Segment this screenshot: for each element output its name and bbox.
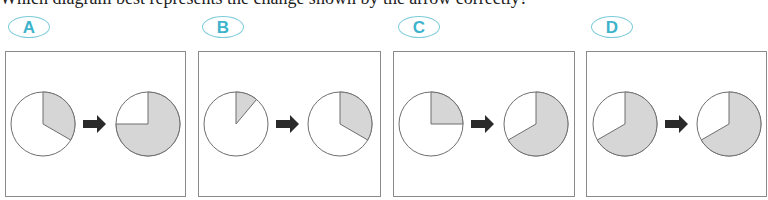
pie-before-b bbox=[204, 92, 268, 156]
arrow-right-icon bbox=[83, 115, 106, 133]
pie-before-a bbox=[11, 92, 75, 156]
pie-before-c bbox=[399, 92, 463, 156]
pie-after-b bbox=[308, 92, 372, 156]
pie-figures bbox=[0, 0, 768, 200]
arrow-right-icon bbox=[276, 115, 299, 133]
pie-before-d bbox=[593, 92, 657, 156]
arrow-right-icon bbox=[471, 115, 494, 133]
arrow-right-icon bbox=[665, 115, 688, 133]
pie-after-c bbox=[504, 92, 568, 156]
pie-after-d bbox=[697, 92, 761, 156]
pie-after-a bbox=[116, 92, 180, 156]
